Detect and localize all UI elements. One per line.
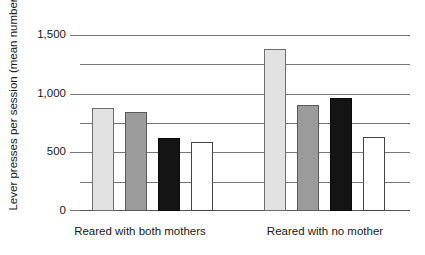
gridline-1500 <box>80 35 410 36</box>
y-axis-tick-labels: 1,500 1,000 500 0 <box>0 35 66 211</box>
bar-g2-b1 <box>264 49 286 211</box>
y-tick-1000 <box>70 94 80 95</box>
bar-g2-b3 <box>330 98 352 211</box>
y-tick-label-1500: 1,500 <box>2 29 66 41</box>
bar-g1-b4 <box>191 142 213 211</box>
bar-g1-b1 <box>92 108 114 211</box>
plot-area <box>80 35 410 211</box>
bar-g1-b3 <box>158 138 180 211</box>
y-tick-label-500: 500 <box>2 146 66 158</box>
bar-g2-b2 <box>297 105 319 211</box>
gridline-1000 <box>80 94 410 95</box>
y-tick-1500 <box>70 35 80 36</box>
y-tick-0 <box>70 210 80 211</box>
y-tick-500 <box>70 152 80 153</box>
y-tick-label-1000: 1,000 <box>2 88 66 100</box>
gridline-1250 <box>80 64 410 65</box>
category-label-group2: Reared with no mother <box>205 224 425 238</box>
bar-g2-b4 <box>363 137 385 211</box>
y-tick-label-0: 0 <box>2 205 66 217</box>
bar-chart: Lever presses per session (mean number) … <box>0 0 425 255</box>
bar-g1-b2 <box>125 112 147 211</box>
